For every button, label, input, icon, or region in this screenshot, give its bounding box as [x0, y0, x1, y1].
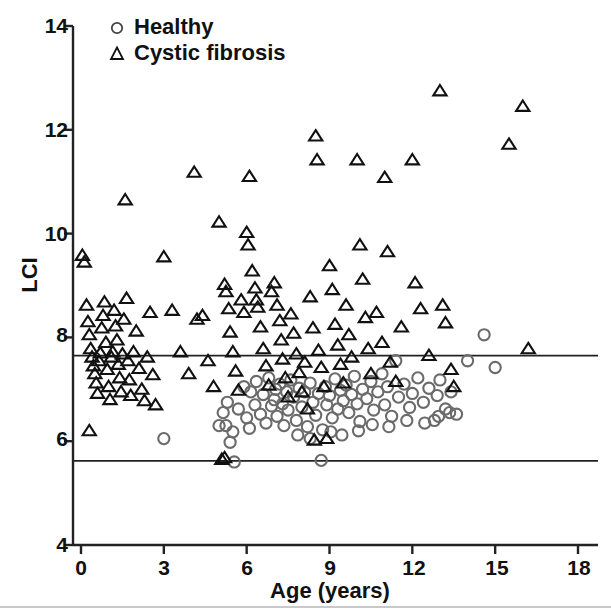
data-point-circle [412, 372, 423, 383]
data-point-circle [244, 423, 255, 434]
data-point-triangle [375, 337, 388, 347]
data-point-triangle [312, 344, 325, 354]
x-tick-label-15: 15 [478, 556, 516, 580]
data-point-triangle [370, 307, 383, 317]
y-tick-label-14: 14 [34, 14, 68, 38]
data-point-circle [434, 374, 445, 385]
data-point-triangle [78, 256, 91, 266]
data-point-triangle [293, 367, 306, 377]
data-point-triangle [326, 284, 339, 294]
data-point-circle [305, 377, 316, 388]
data-point-triangle [83, 329, 96, 339]
data-point-triangle [237, 307, 250, 317]
data-point-circle [404, 402, 415, 413]
data-point-triangle [309, 130, 322, 140]
data-point-triangle [339, 299, 352, 309]
data-point-triangle [235, 294, 248, 304]
data-point-triangle [331, 339, 344, 349]
triangle-icon [104, 40, 130, 66]
data-point-triangle [284, 308, 297, 318]
x-tick-label-9: 9 [317, 556, 343, 580]
data-point-circle [336, 429, 347, 440]
data-point-circle [393, 391, 404, 402]
legend-item-healthy: Healthy [104, 14, 286, 40]
data-point-triangle [304, 291, 317, 301]
data-point-triangle [381, 246, 394, 256]
data-point-circle [220, 420, 231, 431]
data-point-triangle [268, 277, 281, 287]
data-point-triangle [290, 348, 303, 358]
data-point-circle [302, 421, 313, 432]
data-point-triangle [436, 299, 449, 309]
data-point-triangle [516, 101, 529, 111]
data-point-triangle [188, 166, 201, 176]
data-point-triangle [207, 381, 220, 391]
data-point-circle [251, 376, 262, 387]
data-point-triangle [248, 282, 261, 292]
data-point-circle [368, 404, 379, 415]
data-point-triangle [182, 368, 195, 378]
data-point-triangle [522, 343, 535, 353]
data-point-triangle [98, 296, 111, 306]
data-point-triangle [229, 365, 242, 375]
data-point-triangle [406, 154, 419, 164]
data-point-triangle [120, 293, 133, 303]
data-point-triangle [310, 154, 323, 164]
data-point-triangle [433, 85, 446, 95]
data-point-triangle [259, 360, 272, 370]
data-point-circle [418, 397, 429, 408]
data-point-circle [432, 390, 443, 401]
data-point-circle [278, 420, 289, 431]
data-point-triangle [157, 251, 170, 261]
data-point-triangle [165, 305, 178, 315]
data-point-circle [361, 393, 372, 404]
y-tick-label-12: 12 [34, 118, 68, 142]
data-point-triangle [414, 303, 427, 313]
x-tick-label-12: 12 [395, 556, 433, 580]
data-point-triangle [119, 194, 132, 204]
data-point-triangle [395, 321, 408, 331]
y-tick-label-4: 4 [34, 533, 68, 557]
data-point-triangle [315, 362, 328, 372]
data-point-triangle [362, 343, 375, 353]
data-point-circle [222, 397, 233, 408]
legend-item-cystic-fibrosis: Cystic fibrosis [104, 40, 286, 66]
data-point-triangle [240, 227, 253, 237]
data-point-circle [462, 355, 473, 366]
data-point-triangle [254, 321, 267, 331]
data-point-triangle [444, 364, 457, 374]
series-healthy [158, 329, 501, 467]
legend: Healthy Cystic fibrosis [104, 14, 286, 66]
y-tick-label-8: 8 [34, 323, 68, 347]
data-point-circle [349, 371, 360, 382]
data-point-triangle [81, 316, 94, 326]
data-point-triangle [109, 320, 122, 330]
data-point-circle [158, 433, 169, 444]
data-point-circle [291, 415, 302, 426]
data-point-triangle [502, 138, 515, 148]
data-point-triangle [223, 326, 236, 336]
data-point-triangle [130, 325, 143, 335]
data-point-triangle [275, 334, 288, 344]
data-point-triangle [243, 171, 256, 181]
y-axis-title: LCI [17, 225, 43, 325]
data-point-triangle [83, 425, 96, 435]
y-tick-label-6: 6 [34, 427, 68, 451]
data-point-triangle [378, 172, 391, 182]
data-point-triangle [306, 322, 319, 332]
data-point-triangle [257, 343, 270, 353]
data-point-circle [383, 421, 394, 432]
data-point-triangle [212, 216, 225, 226]
data-point-triangle [146, 369, 159, 379]
data-point-circle [490, 362, 501, 373]
page-bottom-rule [0, 606, 611, 608]
data-point-circle [367, 419, 378, 430]
x-tick-label-3: 3 [151, 556, 177, 580]
data-point-triangle [439, 317, 452, 327]
legend-label-cystic-fibrosis: Cystic fibrosis [134, 40, 286, 66]
data-point-circle [227, 426, 238, 437]
data-point-triangle [270, 299, 283, 309]
data-point-triangle [143, 307, 156, 317]
data-point-triangle [353, 239, 366, 249]
circle-icon [104, 14, 130, 40]
